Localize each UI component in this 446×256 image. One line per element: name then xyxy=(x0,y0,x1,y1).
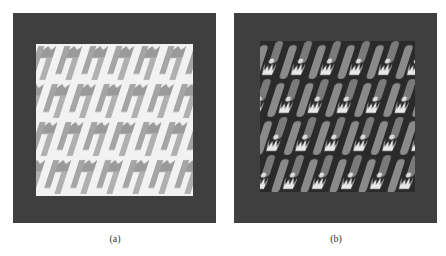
figure-panel-b xyxy=(234,13,437,223)
texture-image-a xyxy=(36,44,193,196)
weave-pattern-b xyxy=(260,41,415,192)
caption-b: (b) xyxy=(316,233,356,244)
texture-image-b xyxy=(260,41,415,192)
caption-a: (a) xyxy=(95,233,135,244)
weave-pattern-a xyxy=(36,44,193,196)
figure-panel-a xyxy=(13,13,216,223)
